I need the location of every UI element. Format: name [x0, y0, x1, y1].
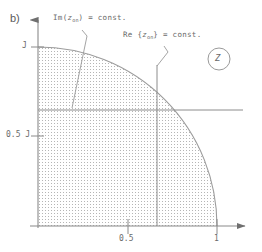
annotation-real: Re {zon} = const.	[123, 30, 202, 40]
annotation-real-prefix: Re {	[123, 30, 142, 39]
annotation-imaginary-suffix: ) = const.	[79, 13, 127, 22]
re-label-leader-line	[157, 46, 168, 66]
region-marker-label: Z	[215, 53, 220, 63]
y-tick-label-J: J	[22, 41, 27, 50]
y-tick-label-half-J: 0.5 J	[6, 130, 30, 139]
x-tick-label-half: 0.5	[119, 234, 133, 243]
x-tick-label-one: 1	[214, 234, 219, 243]
panel-letter: b)	[10, 12, 20, 24]
quarter-disc-fill	[38, 47, 217, 226]
figure-panel-b: b) Im(zon) = const. Re {zon} = const. Z …	[0, 0, 262, 252]
shaded-quarter-disc	[38, 47, 217, 226]
annotation-imaginary-prefix: Im(	[53, 13, 67, 22]
annotation-real-suffix: } = const.	[153, 30, 201, 39]
annotation-imaginary: Im(zon) = const.	[53, 13, 127, 23]
